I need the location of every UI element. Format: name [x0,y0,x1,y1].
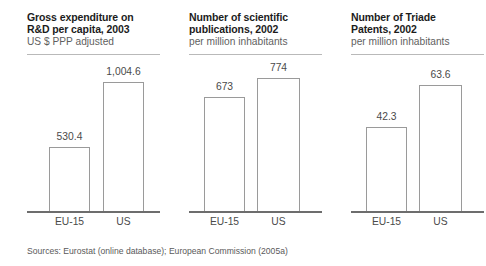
category-label-eu15: EU-15 [194,216,255,228]
bar-value-us: 63.6 [410,69,471,81]
bar-us [419,85,462,212]
panel-row: Gross expenditure on R&D per capita, 200… [0,0,486,238]
bar-us [103,82,144,212]
panel-triade-patents: Number of Triade Patents, 2002 per milli… [324,0,486,238]
axis-baseline [351,211,484,213]
bar-value-us: 1,004.6 [93,66,154,78]
bar-value-eu15: 673 [194,81,255,93]
category-label-us: US [248,216,309,228]
panel-gross-expenditure-rd: Gross expenditure on R&D per capita, 200… [0,0,162,238]
axis-baseline [27,211,160,213]
bar-eu15 [49,147,90,212]
bar-eu15 [366,127,407,212]
source-note: Sources: Eurostat (online database); Eur… [27,246,288,257]
category-label-eu15: EU-15 [356,216,417,228]
axis-baseline [189,211,322,213]
bar-value-us: 774 [248,62,309,74]
plot-area: 42.3 63.6 EU-15 US [324,0,486,238]
bar-eu15 [204,97,245,212]
plot-area: 673 774 EU-15 US [162,0,324,238]
figure-chart-panels: Gross expenditure on R&D per capita, 200… [0,0,486,266]
category-label-us: US [410,216,471,228]
bar-value-eu15: 530.4 [39,131,100,143]
bar-us [257,78,300,212]
category-label-eu15: EU-15 [39,216,100,228]
bar-value-eu15: 42.3 [356,111,417,123]
category-label-us: US [93,216,154,228]
plot-area: 530.4 1,004.6 EU-15 US [0,0,162,238]
panel-scientific-publications: Number of scientific publications, 2002 … [162,0,324,238]
